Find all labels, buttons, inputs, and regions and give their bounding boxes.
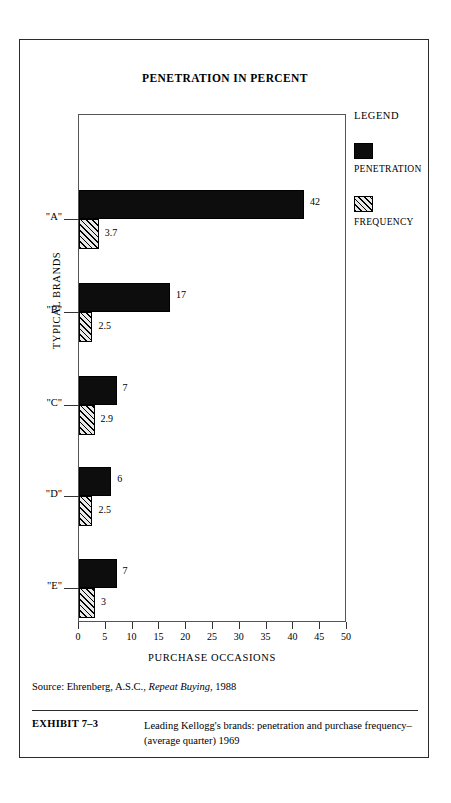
x-axis-tick (239, 622, 240, 629)
x-axis-tick-label: 45 (314, 631, 324, 642)
penetration-bar (79, 190, 304, 219)
category-label: "C" (46, 397, 62, 408)
frequency-bar (79, 312, 92, 342)
x-axis-tick (132, 622, 133, 629)
x-axis-tick (292, 622, 293, 629)
category-tick (64, 219, 79, 220)
x-axis-tick (212, 622, 213, 629)
category-tick (64, 405, 79, 406)
x-axis-tick (78, 622, 79, 629)
x-axis-tick (346, 622, 347, 629)
x-axis-tick-label: 20 (180, 631, 190, 642)
legend-label-frequency: FREQUENCY (354, 217, 434, 227)
category-tick (64, 588, 79, 589)
exhibit-number: EXHIBIT 7–3 (32, 718, 144, 729)
penetration-value-label: 6 (117, 473, 122, 484)
frequency-value-label: 3 (101, 596, 106, 607)
penetration-bar (79, 467, 111, 496)
x-axis-title: PURCHASE OCCASIONS (78, 652, 346, 663)
source-prefix: Source: Ehrenberg, A.S.C., (32, 681, 148, 692)
frequency-value-label: 2.5 (98, 320, 111, 331)
x-axis-tick (105, 622, 106, 629)
legend-title: LEGEND (354, 110, 434, 121)
plot-area: "A"423.7"B"172.5"C"72.9"D"62.5"E"73 (78, 114, 346, 622)
source-suffix: , 1988 (210, 681, 236, 692)
x-axis-tick-label: 5 (102, 631, 107, 642)
frequency-bar (79, 588, 95, 618)
caption-divider (32, 710, 418, 711)
category-tick (64, 496, 79, 497)
source-italic-title: Repeat Buying (148, 681, 210, 692)
hatched-swatch-icon (354, 196, 373, 212)
category-tick (64, 312, 79, 313)
exhibit-caption-text: Leading Kellogg's brands: penetration an… (144, 718, 418, 748)
chart-legend: LEGEND PENETRATION FREQUENCY (354, 110, 434, 249)
penetration-value-label: 7 (123, 382, 128, 393)
penetration-bar (79, 283, 170, 312)
x-axis-tick-label: 50 (341, 631, 351, 642)
category-label: "D" (46, 488, 62, 499)
x-axis-tick (185, 622, 186, 629)
frequency-value-label: 2.9 (101, 413, 114, 424)
penetration-bar (79, 376, 117, 405)
source-line: Source: Ehrenberg, A.S.C., Repeat Buying… (32, 681, 236, 692)
x-axis-tick (266, 622, 267, 629)
y-axis-title: TYPICAL BRANDS (51, 221, 62, 381)
category-label: "E" (47, 580, 62, 591)
frequency-bar (79, 219, 99, 249)
frequency-bar (79, 496, 92, 526)
x-axis-tick-label: 35 (261, 631, 271, 642)
penetration-value-label: 42 (310, 196, 320, 207)
frequency-value-label: 3.7 (105, 227, 118, 238)
penetration-value-label: 7 (123, 565, 128, 576)
penetration-bar (79, 559, 117, 588)
x-axis-tick-label: 15 (153, 631, 163, 642)
chart-title: PENETRATION IN PERCENT (20, 72, 430, 84)
x-axis-tick-label: 0 (76, 631, 81, 642)
penetration-value-label: 17 (176, 289, 186, 300)
exhibit-frame: PENETRATION IN PERCENT "A"423.7"B"172.5"… (19, 39, 429, 758)
x-axis-tick-label: 40 (287, 631, 297, 642)
x-axis-tick-label: 25 (207, 631, 217, 642)
x-axis-tick-label: 30 (234, 631, 244, 642)
solid-black-swatch-icon (354, 143, 373, 159)
x-axis-tick (319, 622, 320, 629)
x-axis-tick (158, 622, 159, 629)
x-axis-tick-label: 10 (127, 631, 137, 642)
legend-entry-penetration: PENETRATION (354, 143, 434, 174)
legend-entry-frequency: FREQUENCY (354, 196, 434, 227)
frequency-value-label: 2.5 (98, 504, 111, 515)
frequency-bar (79, 405, 95, 435)
exhibit-caption: EXHIBIT 7–3 Leading Kellogg's brands: pe… (32, 718, 418, 748)
legend-label-penetration: PENETRATION (354, 164, 434, 174)
